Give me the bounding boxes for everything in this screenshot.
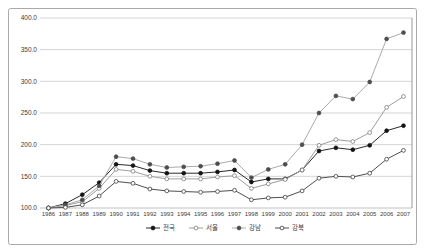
- data-point-gangbuk: [385, 157, 389, 161]
- data-point-seoul: [402, 95, 406, 99]
- data-point-seoul: [317, 143, 321, 147]
- x-axis-tick-label: 1993: [160, 211, 174, 217]
- data-point-gangbuk: [114, 180, 118, 184]
- data-point-gangbuk: [97, 194, 101, 198]
- x-axis-tick-label: 1996: [211, 211, 225, 217]
- data-point-gangnam: [300, 143, 304, 147]
- chart-frame-border: [9, 9, 417, 245]
- data-point-nationwide: [182, 171, 186, 175]
- data-point-gangbuk: [182, 190, 186, 194]
- data-point-gangbuk: [368, 171, 372, 175]
- data-point-gangnam: [182, 165, 186, 169]
- data-point-gangnam: [97, 184, 101, 188]
- x-axis-tick-label: 2005: [363, 211, 377, 217]
- data-point-nationwide: [266, 177, 270, 181]
- data-point-gangbuk: [283, 195, 287, 199]
- data-point-gangbuk: [266, 196, 270, 200]
- data-point-nationwide: [385, 129, 389, 133]
- data-point-nationwide: [148, 169, 152, 173]
- data-point-gangnam: [165, 166, 169, 170]
- series-seoul: [47, 95, 406, 210]
- y-axis-tick-label: 350.0: [21, 46, 38, 53]
- data-point-gangnam: [80, 198, 84, 202]
- legend-item-nationwide: 전국: [146, 223, 175, 232]
- data-point-nationwide: [233, 168, 237, 172]
- legend-marker-gangbuk: [280, 226, 284, 230]
- data-point-nationwide: [334, 146, 338, 150]
- data-point-seoul: [334, 138, 338, 142]
- data-point-nationwide: [351, 148, 355, 152]
- x-axis-tick-label: 2002: [312, 211, 326, 217]
- series-line-gangnam: [49, 33, 404, 208]
- data-point-nationwide: [368, 143, 372, 147]
- data-point-gangbuk: [199, 190, 203, 194]
- data-point-gangbuk: [131, 181, 135, 185]
- legend-marker-nationwide: [151, 226, 155, 230]
- x-axis-tick-label: 1988: [76, 211, 90, 217]
- data-point-nationwide: [317, 149, 321, 153]
- x-axis-tick-label: 1999: [262, 211, 276, 217]
- data-point-nationwide: [199, 171, 203, 175]
- data-point-gangnam: [199, 164, 203, 168]
- data-point-gangnam: [402, 31, 406, 35]
- data-point-seoul: [114, 168, 118, 172]
- housing-price-index-line-chart: 100.0150.0200.0250.0300.0350.0400.019861…: [0, 0, 424, 252]
- data-point-nationwide: [402, 124, 406, 128]
- data-point-gangbuk: [216, 190, 220, 194]
- x-axis-tick-label: 2007: [397, 211, 411, 217]
- data-point-gangnam: [233, 159, 237, 163]
- data-point-nationwide: [80, 193, 84, 197]
- data-point-gangbuk: [80, 203, 84, 207]
- data-point-gangnam: [114, 155, 118, 159]
- data-point-gangbuk: [250, 198, 254, 202]
- x-axis-tick-label: 1998: [245, 211, 259, 217]
- data-point-gangbuk: [148, 187, 152, 191]
- data-point-nationwide: [165, 171, 169, 175]
- y-axis-tick-label: 100.0: [21, 204, 38, 211]
- x-axis-tick-label: 1989: [93, 211, 107, 217]
- data-point-nationwide: [131, 164, 135, 168]
- data-point-gangnam: [334, 94, 338, 98]
- series-line-nationwide: [49, 126, 404, 208]
- data-point-seoul: [250, 187, 254, 191]
- x-axis-tick-label: 1987: [59, 211, 73, 217]
- data-point-seoul: [182, 177, 186, 181]
- legend-label-gangbuk: 강북: [292, 223, 304, 232]
- series-gangnam: [47, 31, 406, 210]
- data-point-gangbuk: [233, 188, 237, 192]
- data-point-seoul: [233, 174, 237, 178]
- legend-label-gangnam: 강남: [249, 223, 261, 231]
- data-point-seoul: [216, 175, 220, 179]
- y-axis-tick-label: 400.0: [21, 14, 38, 21]
- data-point-seoul: [368, 131, 372, 135]
- data-point-gangnam: [317, 111, 321, 115]
- data-point-gangbuk: [351, 175, 355, 179]
- data-point-gangnam: [351, 97, 355, 101]
- data-point-nationwide: [250, 180, 254, 184]
- data-point-gangbuk: [64, 206, 68, 210]
- data-point-gangnam: [266, 168, 270, 172]
- x-axis-tick-label: 1986: [42, 211, 56, 217]
- data-point-seoul: [385, 105, 389, 109]
- data-point-seoul: [266, 182, 270, 186]
- data-point-gangbuk: [47, 206, 51, 210]
- x-axis-tick-label: 1995: [194, 211, 208, 217]
- chart-canvas: 100.0150.0200.0250.0300.0350.0400.019861…: [0, 0, 424, 252]
- data-point-gangnam: [216, 162, 220, 166]
- y-axis-tick-label: 300.0: [21, 78, 38, 85]
- legend-item-gangbuk: 강북: [275, 223, 304, 232]
- legend-item-seoul: 서울: [189, 223, 218, 232]
- data-point-seoul: [165, 177, 169, 181]
- data-point-gangnam: [385, 37, 389, 41]
- x-axis-tick-label: 1992: [143, 211, 157, 217]
- data-point-gangbuk: [402, 149, 406, 153]
- data-point-seoul: [300, 168, 304, 172]
- legend-marker-gangnam: [237, 226, 241, 230]
- data-point-seoul: [283, 178, 287, 182]
- data-point-gangnam: [250, 176, 254, 180]
- data-point-seoul: [148, 174, 152, 178]
- legend-item-gangnam: 강남: [232, 223, 261, 231]
- y-axis-tick-label: 200.0: [21, 141, 38, 148]
- data-point-nationwide: [114, 162, 118, 166]
- y-axis-tick-label: 150.0: [21, 173, 38, 180]
